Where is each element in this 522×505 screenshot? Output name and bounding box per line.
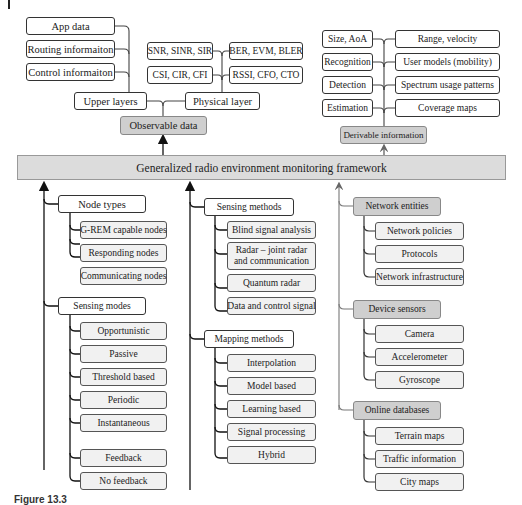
observable-data-node: Observable data [120, 116, 207, 135]
node-types-item-communicating: Communicating nodes [80, 267, 167, 285]
derivable-item-range-velocity: Range, velocity [395, 30, 500, 48]
sensing-modes-item-periodic: Periodic [80, 391, 167, 409]
network-entities-item-infrastructure: Network infrastructure [375, 268, 464, 286]
sensing-modes-node: Sensing modes [58, 297, 146, 315]
derivable-information-node: Derivable information [340, 126, 427, 144]
device-sensors-node: Device sensors [353, 300, 441, 319]
mapping-methods-item-signal-processing: Signal processing [227, 423, 316, 441]
sensing-modes-item-no-feedback: No feedback [80, 472, 167, 490]
network-entities-item-policies: Network policies [375, 222, 464, 240]
figure-caption: Figure 13.3 [14, 494, 67, 505]
online-databases-node: Online databases [353, 401, 441, 420]
upper-layers-item-control: Control informaiton [26, 63, 115, 81]
sensing-methods-item-data-control: Data and control signal [227, 297, 316, 315]
sensing-modes-item-threshold: Threshold based [80, 368, 167, 386]
physical-layer-node: Physical layer [185, 92, 260, 110]
framework-bar: Generalized radio environment monitoring… [17, 155, 506, 180]
mapping-methods-item-hybrid: Hybrid [227, 446, 316, 464]
upper-layers-node: Upper layers [74, 92, 147, 110]
sensing-methods-item-blind: Blind signal analysis [227, 221, 316, 239]
physical-item-csi: CSI, CIR, CFI [147, 66, 213, 84]
mapping-methods-item-model-based: Model based [227, 377, 316, 395]
derivable-item-recognition: Recognition [322, 53, 373, 71]
sensing-modes-item-feedback: Feedback [80, 449, 167, 467]
sensing-methods-item-quantum: Quantum radar [227, 274, 316, 292]
mapping-methods-item-interpolation: Interpolation [227, 354, 316, 372]
sensing-modes-item-passive: Passive [80, 345, 167, 363]
mapping-methods-node: Mapping methods [204, 330, 294, 348]
derivable-item-size-aoa: Size, AoA [322, 30, 373, 48]
physical-item-snr: SNR, SINR, SIR [147, 42, 213, 60]
online-databases-item-terrain: Terrain maps [375, 427, 464, 445]
device-sensors-item-accelerometer: Accelerometer [375, 348, 464, 366]
sensing-methods-node: Sensing methods [204, 198, 294, 216]
derivable-item-user-models: User models (mobility) [395, 53, 500, 71]
node-types-item-responding: Responding nodes [80, 244, 167, 262]
derivable-item-estimation: Estimation [322, 99, 373, 117]
physical-item-rssi: RSSI, CFO, CTO [229, 66, 303, 84]
online-databases-item-city-maps: City maps [375, 473, 464, 491]
network-entities-item-protocols: Protocols [375, 245, 464, 263]
sensing-modes-item-instantaneous: Instantaneous [80, 414, 167, 432]
node-types-node: Node types [58, 195, 146, 213]
device-sensors-item-gyroscope: Gyroscope [375, 371, 464, 389]
node-types-item-grem: G-REM capable nodes [80, 221, 167, 239]
derivable-item-coverage-maps: Coverage maps [395, 99, 500, 117]
mapping-methods-item-learning-based: Learning based [227, 400, 316, 418]
physical-item-ber: BER, EVM, BLER [229, 42, 303, 60]
sensing-methods-item-radar: Radar – joint radar and communication [227, 242, 316, 270]
derivable-item-spectrum-usage: Spectrum usage patterns [395, 76, 500, 94]
sensing-modes-item-opportunistic: Opportunistic [80, 322, 167, 340]
network-entities-node: Network entities [353, 197, 441, 216]
online-databases-item-traffic: Traffic information [375, 450, 464, 468]
upper-layers-item-routing: Routing informaiton [26, 40, 115, 58]
upper-layers-item-app-data: App data [26, 17, 115, 35]
device-sensors-item-camera: Camera [375, 325, 464, 343]
derivable-item-detection: Detection [322, 76, 373, 94]
